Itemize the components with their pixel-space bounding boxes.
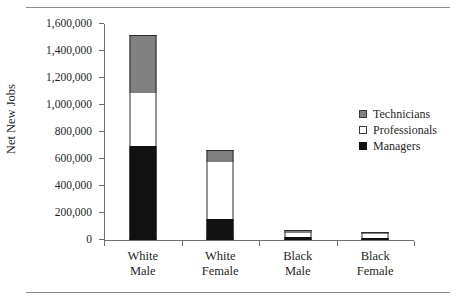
bar-segment-professionals: [207, 162, 234, 219]
y-tick: 400,000: [99, 185, 104, 186]
bar-segment-technicians: [207, 150, 234, 162]
legend-swatch-managers-icon: [359, 142, 367, 150]
bar-segment-technicians: [129, 35, 156, 92]
top-divider-rule: [26, 7, 450, 8]
y-tick-label: 600,000: [55, 153, 92, 165]
bar-segment-professionals: [129, 93, 156, 146]
y-tick-label: 200,000: [55, 207, 92, 219]
y-tick-label: 1,600,000: [46, 18, 92, 30]
y-tick: 1,200,000: [99, 77, 104, 78]
chart-figure: Net New Jobs 0200,000400,000600,000800,0…: [0, 0, 468, 304]
x-tick: [414, 241, 415, 246]
y-tick: 1,600,000: [99, 23, 104, 24]
x-tick: [337, 241, 338, 246]
bar-white-female[interactable]: [207, 150, 234, 240]
legend-swatch-technicians-icon: [359, 110, 367, 118]
legend-label-professionals: Professionals: [373, 124, 437, 136]
y-tick-label: 1,200,000: [46, 72, 92, 84]
bar-segment-managers: [362, 238, 389, 240]
bar-black-male[interactable]: [284, 230, 311, 240]
y-tick-label: 800,000: [55, 126, 92, 138]
bottom-divider-rule: [26, 292, 450, 293]
bar-white-male[interactable]: [129, 35, 156, 240]
legend-item-technicians: Technicians: [359, 107, 437, 121]
x-tick: [259, 241, 260, 246]
x-category-label-line: Female: [328, 264, 422, 279]
legend-label-managers: Managers: [373, 140, 420, 152]
y-axis-title: Net New Jobs: [4, 84, 19, 154]
legend-label-technicians: Technicians: [373, 108, 430, 120]
x-tick: [104, 241, 105, 246]
y-tick: 1,400,000: [99, 50, 104, 51]
bar-segment-managers: [129, 146, 156, 241]
y-axis-line: [104, 24, 105, 241]
legend-item-managers: Managers: [359, 139, 437, 153]
x-category-label-line: Black: [328, 249, 422, 264]
bar-segment-managers: [207, 219, 234, 240]
chart-legend: Technicians Professionals Managers: [359, 107, 437, 155]
y-tick-label: 400,000: [55, 180, 92, 192]
bar-segment-managers: [284, 237, 311, 240]
y-tick: 800,000: [99, 131, 104, 132]
y-tick-label: 0: [86, 234, 92, 246]
bar-black-female[interactable]: [362, 232, 389, 240]
y-tick-label: 1,400,000: [46, 45, 92, 57]
y-tick: 0: [99, 239, 104, 240]
y-tick: 600,000: [99, 158, 104, 159]
x-tick: [182, 241, 183, 246]
y-tick: 1,000,000: [99, 104, 104, 105]
y-tick-label: 1,000,000: [46, 99, 92, 111]
legend-swatch-professionals-icon: [359, 126, 367, 134]
y-tick: 200,000: [99, 212, 104, 213]
x-category-label: BlackFemale: [328, 249, 422, 279]
legend-item-professionals: Professionals: [359, 123, 437, 137]
